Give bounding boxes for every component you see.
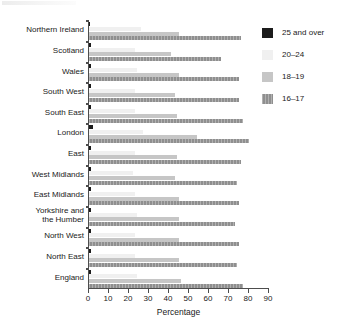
bar (89, 68, 137, 72)
legend-swatch (262, 28, 273, 38)
legend-item[interactable]: 20–24 (262, 48, 342, 70)
bar (89, 197, 179, 201)
bar (89, 238, 179, 242)
bar (89, 279, 181, 283)
bar (89, 36, 241, 40)
category-label: Scotland (0, 46, 84, 56)
category-label: East (0, 149, 84, 159)
legend-swatch (262, 94, 273, 104)
category-label: North East (0, 252, 84, 262)
x-axis-tick-label: 40 (164, 294, 173, 303)
x-axis-tick-label: 50 (184, 294, 193, 303)
bar (89, 57, 221, 61)
category-label: England (0, 273, 84, 283)
x-axis-tick (248, 289, 249, 293)
legend-item[interactable]: 18–19 (262, 70, 342, 92)
category-label: Wales (0, 67, 84, 77)
bar (89, 242, 239, 246)
category-label: North West (0, 231, 84, 241)
bar (89, 171, 133, 175)
bar (89, 89, 135, 93)
plot-area (88, 20, 268, 288)
bar (89, 222, 235, 226)
x-axis-tick-label: 10 (104, 294, 113, 303)
bar (89, 84, 91, 88)
bar (89, 254, 135, 258)
bar (89, 119, 243, 123)
bar (89, 27, 141, 31)
bar (89, 52, 171, 56)
x-axis-title: Percentage (88, 307, 269, 317)
x-axis-tick (168, 289, 169, 293)
bar (89, 201, 239, 205)
legend-label: 25 and over (282, 27, 324, 38)
bar (89, 64, 91, 68)
x-axis-tick-label: 60 (204, 294, 213, 303)
bar (89, 167, 91, 171)
bar (89, 187, 91, 191)
legend-label: 16–17 (282, 93, 304, 104)
x-axis-tick (228, 289, 229, 293)
x-axis-tick-label: 90 (264, 294, 273, 303)
bar (89, 270, 91, 274)
category-label: West Midlands (0, 170, 84, 180)
bar (89, 73, 179, 77)
bar-chart-figure: Northern IrelandScotlandWalesSouth WestS… (0, 0, 344, 326)
legend-swatch (262, 50, 273, 60)
bar (89, 98, 239, 102)
bar (89, 151, 135, 155)
bar (89, 217, 179, 221)
x-axis-tick (108, 289, 109, 293)
category-label: Northern Ireland (0, 25, 84, 35)
x-axis-tick (188, 289, 189, 293)
bar (89, 192, 135, 196)
x-axis-tick (128, 289, 129, 293)
x-axis-tick (148, 289, 149, 293)
bar (89, 176, 175, 180)
bar (89, 160, 241, 164)
x-axis-tick-label: 30 (144, 294, 153, 303)
category-label: East Midlands (0, 190, 84, 200)
bar (89, 258, 179, 262)
bar (89, 32, 179, 36)
category-label: South West (0, 87, 84, 97)
bar (89, 139, 249, 143)
legend-item[interactable]: 25 and over (262, 26, 342, 48)
bar (89, 105, 91, 109)
bar (89, 77, 239, 81)
bar (89, 263, 237, 267)
bar (89, 284, 243, 288)
x-axis-tick (208, 289, 209, 293)
x-axis-tick-label: 20 (124, 294, 133, 303)
bar (89, 233, 135, 237)
value-axis-line (88, 288, 269, 289)
x-axis-tick-label: 0 (86, 294, 90, 303)
legend-label: 20–24 (282, 49, 304, 60)
x-axis-tick (88, 289, 89, 293)
category-label: South East (0, 108, 84, 118)
bar (89, 125, 93, 129)
x-axis-tick (268, 289, 269, 293)
bar (89, 229, 91, 233)
bar (89, 249, 91, 253)
bar (89, 130, 143, 134)
bar (89, 274, 137, 278)
bar (89, 135, 197, 139)
bar (89, 93, 175, 97)
legend-swatch (262, 72, 273, 82)
bar (89, 114, 177, 118)
bar (89, 48, 135, 52)
x-axis-tick-label: 70 (224, 294, 233, 303)
bar (89, 155, 177, 159)
x-axis-tick-label: 80 (244, 294, 253, 303)
category-label: London (0, 128, 84, 138)
category-label: Yorkshire and the Humber (0, 206, 84, 225)
chart-legend: 25 and over20–2418–1916–17 (262, 26, 342, 114)
bar (89, 213, 137, 217)
bar (89, 181, 237, 185)
bar (89, 109, 135, 113)
bar (89, 208, 91, 212)
legend-item[interactable]: 16–17 (262, 92, 342, 114)
bar (89, 146, 91, 150)
bar (89, 22, 90, 26)
